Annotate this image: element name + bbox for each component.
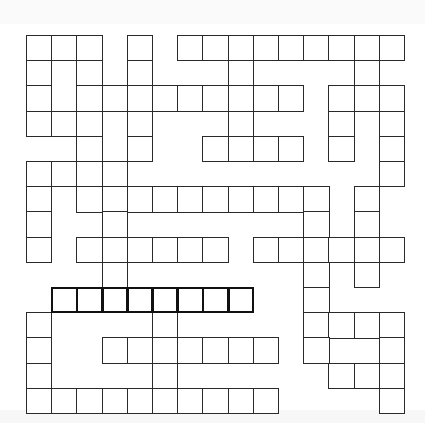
crossword-cell[interactable] xyxy=(102,237,128,263)
crossword-cell[interactable] xyxy=(152,312,178,338)
crossword-cell[interactable] xyxy=(26,186,52,212)
crossword-cell[interactable] xyxy=(102,186,128,212)
crossword-cell[interactable] xyxy=(102,85,128,111)
crossword-cell[interactable] xyxy=(303,211,329,237)
crossword-cell[interactable] xyxy=(354,186,380,212)
crossword-cell[interactable] xyxy=(303,312,329,338)
crossword-cell[interactable] xyxy=(76,136,102,162)
crossword-cell[interactable] xyxy=(26,312,52,338)
crossword-cell[interactable] xyxy=(379,85,405,111)
crossword-cell[interactable] xyxy=(26,161,52,187)
crossword-cell[interactable] xyxy=(379,312,405,338)
crossword-cell[interactable] xyxy=(278,136,304,162)
crossword-cell[interactable] xyxy=(328,111,354,137)
crossword-cell[interactable] xyxy=(354,312,380,338)
highlighted-cell[interactable] xyxy=(51,287,77,313)
crossword-cell[interactable] xyxy=(379,136,405,162)
crossword-cell[interactable] xyxy=(177,237,203,263)
crossword-cell[interactable] xyxy=(379,388,405,414)
crossword-cell[interactable] xyxy=(127,337,153,363)
highlighted-cell[interactable] xyxy=(127,287,153,313)
crossword-cell[interactable] xyxy=(51,161,77,187)
crossword-cell[interactable] xyxy=(76,60,102,86)
crossword-cell[interactable] xyxy=(328,237,354,263)
crossword-cell[interactable] xyxy=(152,337,178,363)
crossword-cell[interactable] xyxy=(102,211,128,237)
crossword-cell[interactable] xyxy=(51,35,77,61)
crossword-cell[interactable] xyxy=(127,35,153,61)
crossword-cell[interactable] xyxy=(303,262,329,288)
crossword-cell[interactable] xyxy=(253,186,279,212)
crossword-cell[interactable] xyxy=(51,111,77,137)
crossword-cell[interactable] xyxy=(152,363,178,389)
crossword-cell[interactable] xyxy=(328,35,354,61)
highlighted-cell[interactable] xyxy=(177,287,203,313)
crossword-cell[interactable] xyxy=(76,85,102,111)
crossword-cell[interactable] xyxy=(76,388,102,414)
crossword-cell[interactable] xyxy=(354,35,380,61)
crossword-cell[interactable] xyxy=(328,312,354,338)
crossword-cell[interactable] xyxy=(76,111,102,137)
crossword-cell[interactable] xyxy=(177,337,203,363)
crossword-cell[interactable] xyxy=(26,363,52,389)
crossword-cell[interactable] xyxy=(379,35,405,61)
crossword-cell[interactable] xyxy=(278,186,304,212)
crossword-cell[interactable] xyxy=(253,35,279,61)
crossword-cell[interactable] xyxy=(26,111,52,137)
crossword-cell[interactable] xyxy=(76,237,102,263)
crossword-cell[interactable] xyxy=(303,337,329,363)
crossword-cell[interactable] xyxy=(253,85,279,111)
highlighted-cell[interactable] xyxy=(76,287,102,313)
crossword-cell[interactable] xyxy=(26,85,52,111)
crossword-cell[interactable] xyxy=(127,186,153,212)
crossword-cell[interactable] xyxy=(102,388,128,414)
crossword-cell[interactable] xyxy=(177,35,203,61)
crossword-cell[interactable] xyxy=(253,237,279,263)
crossword-cell[interactable] xyxy=(26,211,52,237)
crossword-cell[interactable] xyxy=(51,388,77,414)
crossword-cell[interactable] xyxy=(354,211,380,237)
crossword-cell[interactable] xyxy=(278,237,304,263)
crossword-cell[interactable] xyxy=(202,388,228,414)
crossword-cell[interactable] xyxy=(127,136,153,162)
crossword-cell[interactable] xyxy=(127,388,153,414)
crossword-cell[interactable] xyxy=(152,85,178,111)
crossword-cell[interactable] xyxy=(228,60,254,86)
crossword-cell[interactable] xyxy=(228,388,254,414)
crossword-cell[interactable] xyxy=(76,186,102,212)
crossword-cell[interactable] xyxy=(102,262,128,288)
crossword-cell[interactable] xyxy=(278,85,304,111)
crossword-cell[interactable] xyxy=(76,161,102,187)
crossword-cell[interactable] xyxy=(354,60,380,86)
crossword-cell[interactable] xyxy=(303,287,329,313)
crossword-cell[interactable] xyxy=(228,136,254,162)
crossword-cell[interactable] xyxy=(202,85,228,111)
crossword-cell[interactable] xyxy=(127,85,153,111)
highlighted-cell[interactable] xyxy=(102,287,128,313)
crossword-cell[interactable] xyxy=(228,35,254,61)
crossword-cell[interactable] xyxy=(228,111,254,137)
crossword-cell[interactable] xyxy=(152,237,178,263)
crossword-cell[interactable] xyxy=(177,388,203,414)
crossword-cell[interactable] xyxy=(202,136,228,162)
crossword-cell[interactable] xyxy=(102,337,128,363)
crossword-cell[interactable] xyxy=(328,136,354,162)
crossword-cell[interactable] xyxy=(102,161,128,187)
crossword-cell[interactable] xyxy=(354,262,380,288)
crossword-cell[interactable] xyxy=(152,388,178,414)
highlighted-cell[interactable] xyxy=(152,287,178,313)
crossword-cell[interactable] xyxy=(328,85,354,111)
crossword-cell[interactable] xyxy=(354,237,380,263)
crossword-cell[interactable] xyxy=(26,60,52,86)
crossword-cell[interactable] xyxy=(253,337,279,363)
crossword-cell[interactable] xyxy=(127,60,153,86)
crossword-cell[interactable] xyxy=(228,337,254,363)
crossword-cell[interactable] xyxy=(228,186,254,212)
crossword-cell[interactable] xyxy=(328,363,354,389)
crossword-cell[interactable] xyxy=(177,85,203,111)
crossword-cell[interactable] xyxy=(177,186,203,212)
crossword-cell[interactable] xyxy=(303,35,329,61)
crossword-cell[interactable] xyxy=(379,363,405,389)
crossword-cell[interactable] xyxy=(379,161,405,187)
crossword-cell[interactable] xyxy=(26,237,52,263)
